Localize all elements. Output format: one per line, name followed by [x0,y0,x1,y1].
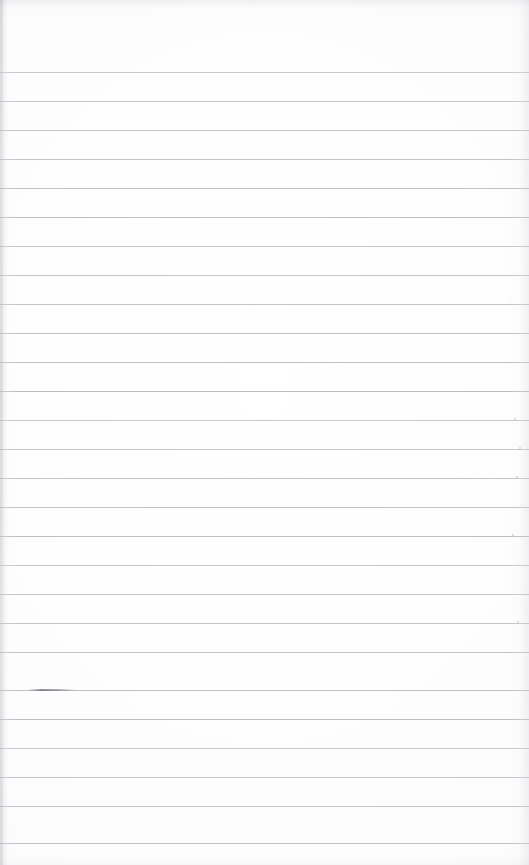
ruled-lines-layer [0,0,529,865]
rule-line [0,246,529,247]
rule-line [0,806,529,807]
rule-line [0,449,529,450]
rule-line [0,594,529,595]
rule-line [0,391,529,392]
rule-line [0,101,529,102]
rule-line [0,565,529,566]
rule-line [0,623,529,624]
rule-line [0,652,529,653]
rule-line [0,333,529,334]
rule-line [0,159,529,160]
rule-line [0,507,529,508]
rule-line [0,304,529,305]
rule-line [0,362,529,363]
rule-line [0,777,529,778]
bottom-margin [0,844,529,865]
scanned-page [0,0,529,865]
rule-line [0,275,529,276]
rule-line [0,719,529,720]
rule-line [0,130,529,131]
rule-line [0,536,529,537]
rule-line [0,420,529,421]
rule-line [0,217,529,218]
rule-line [0,72,529,73]
rule-line [0,690,529,691]
rule-line [0,478,529,479]
rule-line [0,188,529,189]
rule-line [0,748,529,749]
